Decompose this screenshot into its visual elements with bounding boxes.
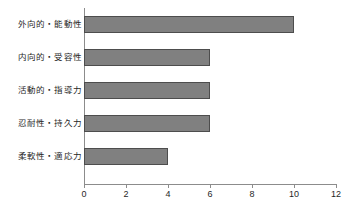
x-tick-label-6: 12 <box>331 190 341 199</box>
category-label-2: 活動的・指導力 <box>0 86 82 95</box>
x-tick-label-3: 6 <box>207 190 212 199</box>
x-tick-5 <box>294 184 295 188</box>
bar-chart: 外向的・能動性 内向的・受容性 活動的・指導力 忍耐性・持久力 柔軟性・適応力 … <box>0 0 356 216</box>
x-tick-label-2: 4 <box>165 190 170 199</box>
x-tick-3 <box>210 184 211 188</box>
x-tick-label-5: 10 <box>289 190 299 199</box>
plot-area: 0 2 4 6 8 10 12 <box>84 8 336 184</box>
category-label-3: 忍耐性・持久力 <box>0 119 82 128</box>
bar-2 <box>84 82 210 99</box>
x-tick-2 <box>168 184 169 188</box>
x-tick-0 <box>84 184 85 188</box>
bar-4 <box>84 148 168 165</box>
category-label-1: 内向的・受容性 <box>0 53 82 62</box>
x-tick-label-0: 0 <box>81 190 86 199</box>
bar-1 <box>84 49 210 66</box>
x-tick-label-1: 2 <box>123 190 128 199</box>
bar-3 <box>84 115 210 132</box>
bar-0 <box>84 16 294 33</box>
category-label-4: 柔軟性・適応力 <box>0 152 82 161</box>
x-tick-label-4: 8 <box>249 190 254 199</box>
category-label-0: 外向的・能動性 <box>0 20 82 29</box>
x-tick-6 <box>336 184 337 188</box>
x-tick-1 <box>126 184 127 188</box>
x-tick-4 <box>252 184 253 188</box>
